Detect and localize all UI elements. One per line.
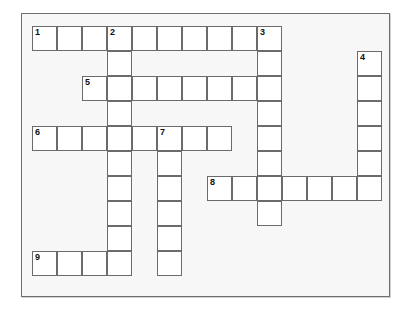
crossword-cell[interactable]	[232, 26, 257, 51]
crossword-cell[interactable]	[107, 151, 132, 176]
cell-number-8: 8	[210, 177, 215, 188]
crossword-cell[interactable]	[107, 51, 132, 76]
crossword-cell[interactable]	[357, 76, 382, 101]
crossword-cell[interactable]	[157, 176, 182, 201]
crossword-cell[interactable]: 4	[357, 51, 382, 76]
crossword-cell[interactable]	[207, 26, 232, 51]
cell-number-3: 3	[260, 27, 265, 38]
crossword-cell[interactable]	[107, 101, 132, 126]
cell-number-9: 9	[35, 252, 40, 263]
crossword-cell[interactable]	[107, 201, 132, 226]
crossword-cell[interactable]	[132, 126, 157, 151]
crossword-cell[interactable]	[107, 76, 132, 101]
cell-number-2: 2	[110, 27, 115, 38]
crossword-cell[interactable]: 5	[82, 76, 107, 101]
crossword-cell[interactable]	[307, 176, 332, 201]
crossword-cell[interactable]	[257, 176, 282, 201]
crossword-cell[interactable]	[157, 251, 182, 276]
crossword-cell[interactable]	[357, 126, 382, 151]
crossword-cell[interactable]	[257, 151, 282, 176]
crossword-cell[interactable]	[232, 176, 257, 201]
crossword-cell[interactable]: 9	[32, 251, 57, 276]
crossword-cell[interactable]	[107, 226, 132, 251]
crossword-cell[interactable]	[157, 226, 182, 251]
crossword-cell[interactable]	[257, 51, 282, 76]
crossword-cell[interactable]	[57, 251, 82, 276]
crossword-cell[interactable]	[157, 26, 182, 51]
cell-number-5: 5	[85, 77, 90, 88]
crossword-cell[interactable]	[57, 26, 82, 51]
crossword-cell[interactable]	[182, 26, 207, 51]
crossword-cell[interactable]: 7	[157, 126, 182, 151]
crossword-cell[interactable]	[257, 126, 282, 151]
crossword-cell[interactable]	[257, 101, 282, 126]
crossword-cell[interactable]	[182, 76, 207, 101]
crossword-cell[interactable]	[82, 26, 107, 51]
crossword-cell[interactable]	[157, 76, 182, 101]
cell-number-7: 7	[160, 127, 165, 138]
crossword-cell[interactable]: 8	[207, 176, 232, 201]
crossword-cell[interactable]: 6	[32, 126, 57, 151]
crossword-cell[interactable]: 3	[257, 26, 282, 51]
crossword-cell[interactable]	[332, 176, 357, 201]
crossword-cell[interactable]	[82, 251, 107, 276]
crossword-cell[interactable]	[132, 26, 157, 51]
crossword-cell[interactable]	[157, 151, 182, 176]
crossword-cell[interactable]	[207, 126, 232, 151]
crossword-cell[interactable]: 1	[32, 26, 57, 51]
crossword-cell[interactable]	[357, 101, 382, 126]
crossword-grid[interactable]: 123456789	[22, 14, 389, 296]
crossword-cell[interactable]	[357, 176, 382, 201]
crossword-cell[interactable]	[132, 76, 157, 101]
crossword-cell[interactable]	[182, 126, 207, 151]
crossword-cell[interactable]	[157, 201, 182, 226]
crossword-cell[interactable]	[207, 76, 232, 101]
crossword-cell[interactable]	[357, 151, 382, 176]
crossword-cell[interactable]	[107, 176, 132, 201]
cell-number-1: 1	[35, 27, 40, 38]
cell-number-6: 6	[35, 127, 40, 138]
crossword-cell[interactable]	[107, 251, 132, 276]
crossword-cell[interactable]	[107, 126, 132, 151]
crossword-cell[interactable]	[82, 126, 107, 151]
crossword-cell[interactable]	[282, 176, 307, 201]
crossword-cell[interactable]	[257, 76, 282, 101]
cell-number-4: 4	[360, 52, 365, 63]
crossword-frame: 123456789	[21, 13, 390, 297]
crossword-cell[interactable]	[232, 76, 257, 101]
crossword-cell[interactable]	[257, 201, 282, 226]
crossword-cell[interactable]: 2	[107, 26, 132, 51]
crossword-cell[interactable]	[57, 126, 82, 151]
